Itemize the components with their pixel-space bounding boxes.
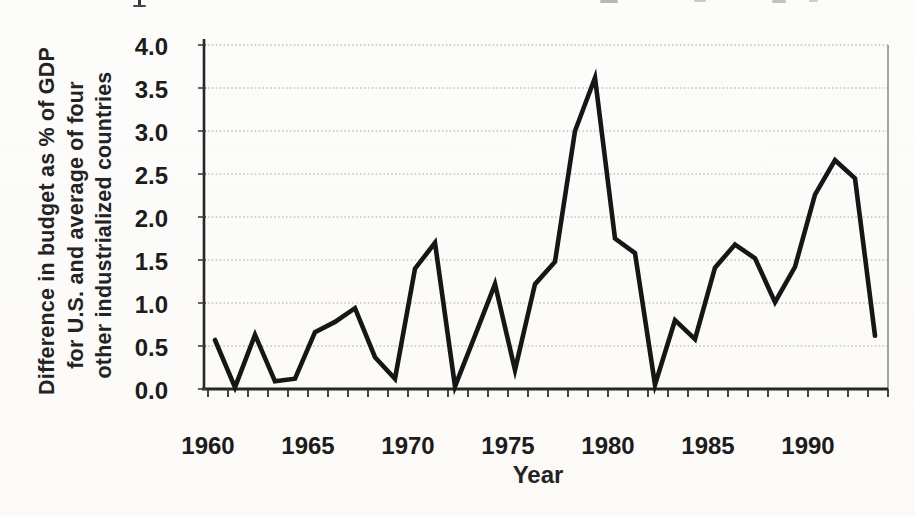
x-tick-label-1975: 1975 <box>463 432 553 460</box>
x-tick-label-1980: 1980 <box>563 432 653 460</box>
x-tick-label-1990: 1990 <box>763 432 853 460</box>
budget-difference-line-chart: Difference in budget as % of GDP for U.S… <box>0 0 915 516</box>
x-tick-label-1965: 1965 <box>263 432 353 460</box>
x-tick-label-1960: 1960 <box>163 432 253 460</box>
x-axis-title: Year <box>493 461 583 489</box>
x-tick-label-1970: 1970 <box>363 432 453 460</box>
x-tick-label-1985: 1985 <box>663 432 753 460</box>
data-line-us-budget-difference <box>215 78 875 388</box>
